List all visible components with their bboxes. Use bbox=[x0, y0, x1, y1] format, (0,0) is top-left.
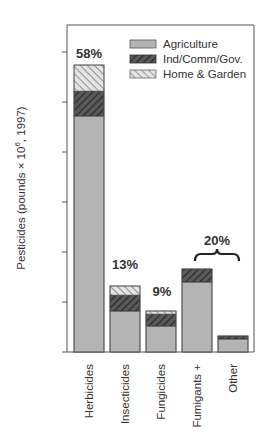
bar-other-ind-comm-gov bbox=[218, 336, 248, 339]
x-tick-label-other: Other bbox=[227, 364, 239, 393]
legend-item-home-garden: Home & Garden bbox=[130, 68, 246, 80]
bar-group-fumigants bbox=[182, 269, 212, 352]
bars bbox=[74, 65, 248, 352]
legend-item-agriculture: Agriculture bbox=[130, 38, 218, 50]
bar-fumigants-agriculture bbox=[182, 282, 212, 352]
legend-item-ind-comm-gov: Ind/Comm/Gov. bbox=[130, 53, 243, 65]
annotation-label-fungicides: 9% bbox=[153, 284, 172, 299]
bar-fungicides-agriculture bbox=[146, 326, 176, 352]
bar-fumigants-ind-comm-gov bbox=[182, 269, 212, 282]
legend: Agriculture Ind/Comm/Gov. Home & Garden bbox=[130, 38, 246, 80]
y-axis-label-main: Pesticides (pounds × 10 bbox=[15, 147, 27, 270]
legend-swatch-agriculture bbox=[130, 40, 156, 48]
bar-herbicides-home-garden bbox=[74, 65, 104, 91]
bar-group-other bbox=[218, 336, 248, 352]
annotation-label-insecticides: 13% bbox=[112, 257, 138, 272]
bar-insecticides-home-garden bbox=[110, 286, 140, 295]
bar-fungicides-ind-comm-gov bbox=[146, 314, 176, 326]
x-tick-labels: HerbicidesInsecticidesFungicidesFumigant… bbox=[83, 364, 239, 428]
y-axis-label: Pesticides (pounds × 106, 1997) bbox=[13, 106, 27, 270]
bar-group-fungicides bbox=[146, 311, 176, 352]
x-tick-label-fumigants: Fumigants + bbox=[191, 364, 203, 428]
annotation-label-herbicides: 58% bbox=[76, 46, 102, 61]
pesticide-usage-chart: 58%13%9%20% HerbicidesInsecticidesFungic… bbox=[0, 0, 270, 440]
x-tick-label-fungicides: Fungicides bbox=[155, 364, 167, 420]
legend-swatch-home-garden bbox=[130, 70, 156, 78]
legend-label-home-garden: Home & Garden bbox=[163, 68, 246, 80]
bar-insecticides-agriculture bbox=[110, 311, 140, 352]
y-ticks bbox=[62, 52, 67, 302]
annotation-brace bbox=[195, 249, 239, 261]
annotation-label-3: 20% bbox=[204, 233, 230, 248]
bar-group-insecticides bbox=[110, 286, 140, 352]
legend-label-agriculture: Agriculture bbox=[163, 38, 218, 50]
bar-group-herbicides bbox=[74, 65, 104, 352]
bar-other-agriculture bbox=[218, 339, 248, 352]
bar-insecticides-ind-comm-gov bbox=[110, 295, 140, 311]
x-tick-label-insecticides: Insecticides bbox=[119, 364, 131, 424]
bar-herbicides-ind-comm-gov bbox=[74, 91, 104, 116]
x-tick-label-herbicides: Herbicides bbox=[83, 364, 95, 419]
legend-label-ind-comm-gov: Ind/Comm/Gov. bbox=[163, 53, 243, 65]
bar-herbicides-agriculture bbox=[74, 116, 104, 352]
y-axis-label-tail: , 1997) bbox=[15, 106, 27, 142]
bar-fungicides-home-garden bbox=[146, 311, 176, 314]
legend-swatch-ind-comm-gov bbox=[130, 55, 156, 63]
